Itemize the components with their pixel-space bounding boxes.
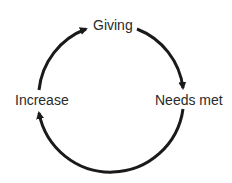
node-giving: Giving bbox=[93, 18, 133, 32]
node-increase: Increase bbox=[15, 93, 69, 107]
arrow-increase-to-giving bbox=[39, 29, 86, 90]
arrow-needs-met-to-increase bbox=[39, 109, 183, 172]
node-needs-met: Needs met bbox=[155, 93, 223, 107]
arrow-giving-to-needs-met bbox=[137, 29, 183, 88]
